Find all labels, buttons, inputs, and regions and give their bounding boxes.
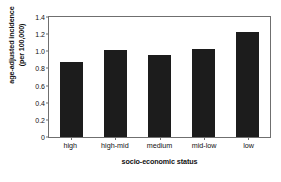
y-axis-tick-label: 1.4 [35, 14, 45, 21]
x-axis-tick-labels: highhigh-midmediummid-lowlow [48, 141, 271, 150]
bar-medium [148, 55, 171, 137]
bar-chart-figure: age-adjusted incidence (per 100,000) 00.… [0, 0, 281, 182]
x-axis-tick-mark [115, 137, 116, 140]
x-axis-tick-label-low: low [226, 141, 271, 150]
bar-slot [137, 17, 181, 137]
bar-series [49, 17, 270, 137]
x-axis-tick-mark [160, 137, 161, 140]
bar-slot [182, 17, 226, 137]
y-axis-tick-label: 1.0 [35, 48, 45, 55]
x-axis-tick-label-high: high [48, 141, 93, 150]
bar-slot [226, 17, 270, 137]
bar-high-mid [104, 50, 127, 137]
x-axis-tick-label-mid-low: mid-low [182, 141, 227, 150]
y-axis-tick-label: 0 [41, 134, 45, 141]
y-axis-title-line-2: (per 100,000) [17, 0, 27, 105]
x-axis-tick-mark [71, 137, 72, 140]
y-axis-tick-label: 1.2 [35, 31, 45, 38]
bar-slot [49, 17, 93, 137]
bar-high [60, 62, 83, 137]
x-axis-tick-mark [204, 137, 205, 140]
plot-area: 00.20.40.60.81.01.21.4 [48, 16, 271, 138]
y-axis-tick-label: 0.2 [35, 116, 45, 123]
x-axis-tick-label-medium: medium [137, 141, 182, 150]
x-axis-tick-mark [248, 137, 249, 140]
y-axis-title: age-adjusted incidence (per 100,000) [7, 0, 29, 105]
x-axis-title: socio-economic status [48, 157, 271, 166]
y-axis-tick-label: 0.4 [35, 99, 45, 106]
bar-low [236, 32, 259, 137]
bar-mid-low [192, 49, 215, 137]
y-axis-title-line-1: age-adjusted incidence [7, 0, 17, 105]
bar-slot [93, 17, 137, 137]
x-axis-tick-label-high-mid: high-mid [93, 141, 138, 150]
y-axis-tick-label: 0.8 [35, 65, 45, 72]
y-axis-tick-label: 0.6 [35, 82, 45, 89]
